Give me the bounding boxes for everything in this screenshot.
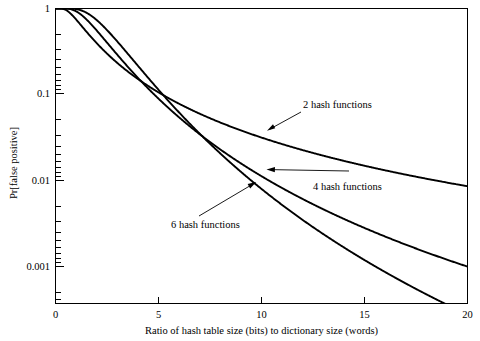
x-tick-label-20: 20 bbox=[462, 309, 473, 320]
chart-figure: 1 0.1 0.01 0.001 0 5 10 15 20 Ratio of h… bbox=[0, 0, 480, 341]
y-tick-label-1: 1 bbox=[45, 3, 50, 14]
y-tick-label-0.1: 0.1 bbox=[37, 88, 50, 99]
x-tick-label-5: 5 bbox=[156, 309, 161, 320]
annotation-4-hash-functions: 4 hash functions bbox=[313, 181, 382, 192]
annotation-6-hash-functions: 6 hash functions bbox=[171, 219, 240, 230]
bloom-filter-chart: 1 0.1 0.01 0.001 0 5 10 15 20 Ratio of h… bbox=[0, 0, 480, 341]
y-tick-label-0.001: 0.001 bbox=[26, 261, 50, 272]
x-tick-label-10: 10 bbox=[256, 309, 267, 320]
x-tick-label-15: 15 bbox=[359, 309, 370, 320]
x-tick-label-0: 0 bbox=[53, 309, 58, 320]
y-tick-label-0.01: 0.01 bbox=[32, 175, 50, 186]
y-axis-title: Pr[false positive] bbox=[8, 127, 19, 199]
x-axis-title: Ratio of hash table size (bits) to dicti… bbox=[145, 325, 378, 337]
annotation-2-hash-functions: 2 hash functions bbox=[303, 99, 372, 110]
